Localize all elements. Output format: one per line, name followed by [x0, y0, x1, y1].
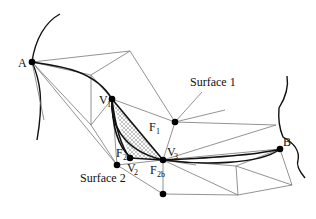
label-b: B	[283, 135, 291, 149]
label-v2-sub: 2	[134, 168, 138, 177]
label-surface-1: Surface 1	[190, 75, 236, 89]
label-surface-2: Surface 2	[80, 171, 126, 185]
label-v3-sub: 3	[174, 152, 178, 161]
label-v1-sub: 1	[107, 100, 111, 109]
vertex-bottom	[160, 191, 167, 198]
label-a: A	[18, 56, 27, 70]
label-f2b-sub: 2b	[157, 170, 165, 179]
vertex-v3	[160, 157, 167, 164]
label-f1: F	[149, 120, 156, 134]
vertex-surface2	[114, 162, 121, 169]
label-f2: F	[116, 146, 123, 160]
vertex-surface1	[172, 119, 179, 126]
mesh-diagram: A B V 1 V 2 V 3 F 1 F 2 F 2b Surface 1 S…	[0, 0, 316, 219]
geodesic-path	[32, 62, 280, 163]
label-f1-sub: 1	[156, 127, 160, 136]
label-f2b: F	[150, 163, 157, 177]
label-f2-sub: 2	[123, 153, 127, 162]
surface-boundary-right	[279, 76, 305, 178]
vertex-a	[29, 59, 36, 66]
